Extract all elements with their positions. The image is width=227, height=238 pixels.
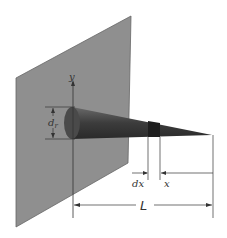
- L-arrow-right: [206, 203, 212, 207]
- x-label: x: [164, 178, 170, 189]
- differential-element: [148, 121, 160, 137]
- cone-base: [64, 107, 80, 139]
- cone-wall-diagram: y dr dx x L: [0, 0, 227, 238]
- dx-arrow-head: [143, 171, 148, 175]
- y-label: y: [68, 71, 75, 82]
- L-arrow-left: [74, 203, 80, 207]
- dx-label: dx: [132, 178, 144, 189]
- cone: [72, 107, 212, 139]
- x-arrow-head: [161, 171, 166, 175]
- L-label: L: [140, 198, 147, 213]
